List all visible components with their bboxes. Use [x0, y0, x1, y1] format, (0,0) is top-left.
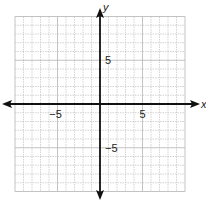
coordinate-plane: x y −555−5 — [0, 0, 206, 204]
x-axis-label: x — [200, 98, 206, 110]
x-tick-label: 5 — [139, 108, 145, 120]
y-tick-label: −5 — [105, 142, 118, 154]
y-axis-label: y — [102, 1, 110, 13]
y-tick-label: 5 — [105, 54, 111, 66]
x-tick-label: −5 — [49, 108, 62, 120]
